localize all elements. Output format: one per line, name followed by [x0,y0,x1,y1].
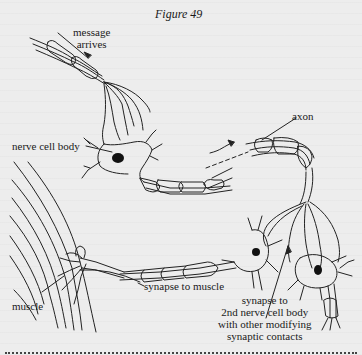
label-axon: axon [292,110,313,122]
label-synapse-to-muscle: synapse to muscle [144,280,224,292]
book-page: Figure 49 message arrives axon nerve cel… [0,0,362,355]
axon-pointer [262,118,296,140]
label-synapse-line-1: synapse to [218,294,312,306]
incoming-axon [30,38,150,144]
figure-title: Figure 49 [155,7,202,22]
label-synapse-line-2: 2nd nerve cell body [218,306,312,318]
label-nerve-cell-body: nerve cell body [12,140,80,152]
continuing-axon [246,138,340,269]
label-message-line-2: arrives [73,38,110,50]
label-message-line-1: message [73,26,110,38]
label-synapse-to-2nd-nerve-cell: synapse to 2nd nerve cell body with othe… [218,294,312,342]
neuromuscular-synapse [58,246,140,304]
truncated-body-text [0,346,362,355]
first-nerve-cell [82,130,232,194]
second-nerve-cell [120,216,282,290]
label-muscle: muscle [12,300,43,312]
label-synapse-line-4: synaptic contacts [218,330,312,342]
label-message-arrives: message arrives [73,26,110,50]
signal-arrow [206,140,248,168]
label-synapse-line-3: with other modifying [218,318,312,330]
